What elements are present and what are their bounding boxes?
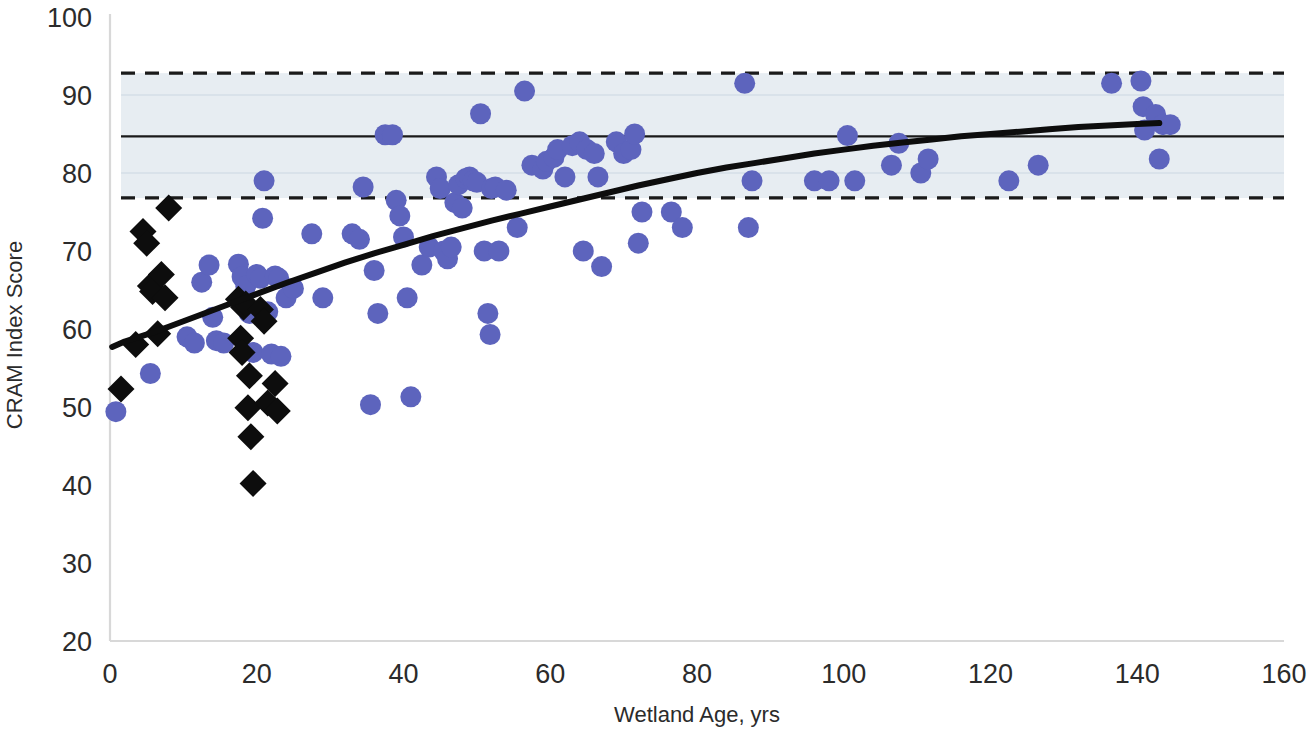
y-tick-label-80: 80 xyxy=(62,159,92,189)
data-point-circle xyxy=(301,223,322,244)
data-point-circle xyxy=(199,255,220,276)
data-point-diamond xyxy=(236,362,263,389)
y-tick-label-70: 70 xyxy=(62,237,92,267)
data-point-circle xyxy=(631,202,652,223)
data-point-circle xyxy=(628,233,649,254)
data-point-circle xyxy=(480,324,501,345)
data-point-circle xyxy=(140,363,161,384)
y-tick-label-90: 90 xyxy=(62,81,92,111)
data-point-circle xyxy=(105,401,126,422)
y-tick-label-100: 100 xyxy=(47,3,92,33)
data-point-circle xyxy=(742,170,763,191)
data-point-circle xyxy=(734,73,755,94)
data-point-circle xyxy=(184,333,205,354)
x-tick-label-60: 60 xyxy=(535,659,565,689)
data-point-diamond xyxy=(234,394,261,421)
data-point-circle xyxy=(998,170,1019,191)
y-tick-label-50: 50 xyxy=(62,393,92,423)
x-tick-label-0: 0 xyxy=(102,659,117,689)
x-tick-label-20: 20 xyxy=(242,659,272,689)
y-tick-label-30: 30 xyxy=(62,549,92,579)
data-point-circle xyxy=(496,180,517,201)
data-point-circle xyxy=(1130,70,1151,91)
data-point-circle xyxy=(364,260,385,281)
data-point-circle xyxy=(584,143,605,164)
data-point-circle xyxy=(591,256,612,277)
data-point-circle xyxy=(367,303,388,324)
data-point-diamond xyxy=(240,470,267,497)
y-tick-label-40: 40 xyxy=(62,471,92,501)
data-point-circle xyxy=(507,217,528,238)
data-point-circle xyxy=(349,229,370,250)
data-point-circle xyxy=(411,255,432,276)
data-point-circle xyxy=(353,177,374,198)
data-point-circle xyxy=(382,124,403,145)
data-point-circle xyxy=(360,394,381,415)
x-tick-label-100: 100 xyxy=(821,659,866,689)
data-point-circle xyxy=(254,170,275,191)
data-point-circle xyxy=(738,217,759,238)
data-point-circle xyxy=(452,198,473,219)
data-point-circle xyxy=(573,241,594,262)
x-tick-label-160: 160 xyxy=(1261,659,1306,689)
data-point-circle xyxy=(488,241,509,262)
data-point-circle xyxy=(918,148,939,169)
x-tick-label-140: 140 xyxy=(1115,659,1160,689)
y-tick-label-60: 60 xyxy=(62,315,92,345)
data-point-circle xyxy=(837,125,858,146)
x-tick-label-120: 120 xyxy=(968,659,1013,689)
data-point-diamond xyxy=(108,376,135,403)
data-point-circle xyxy=(1101,73,1122,94)
scatter-plot: 0204060801001201401602030405060708090100… xyxy=(0,0,1312,734)
data-point-circle xyxy=(400,386,421,407)
data-point-circle xyxy=(397,287,418,308)
data-point-circle xyxy=(477,303,498,324)
data-point-circle xyxy=(1160,114,1181,135)
y-tick-label-20: 20 xyxy=(62,627,92,657)
x-tick-label-40: 40 xyxy=(388,659,418,689)
data-point-circle xyxy=(819,170,840,191)
data-point-circle xyxy=(470,103,491,124)
data-point-circle xyxy=(1028,155,1049,176)
x-tick-label-80: 80 xyxy=(682,659,712,689)
data-point-circle xyxy=(844,170,865,191)
data-point-circle xyxy=(624,124,645,145)
data-point-circle xyxy=(252,208,273,229)
data-point-circle xyxy=(1149,148,1170,169)
data-point-circle xyxy=(587,166,608,187)
y-axis-title: CRAM Index Score xyxy=(2,241,27,429)
data-point-circle xyxy=(270,346,291,367)
x-axis-title: Wetland Age, yrs xyxy=(614,702,780,727)
data-point-circle xyxy=(312,287,333,308)
data-point-circle xyxy=(514,81,535,102)
data-point-circle xyxy=(881,155,902,176)
data-point-circle xyxy=(441,237,462,258)
chart-container: 0204060801001201401602030405060708090100… xyxy=(0,0,1312,734)
axis-titles-layer: Wetland Age, yrs CRAM Index Score xyxy=(2,241,780,727)
data-point-circle xyxy=(389,205,410,226)
data-point-diamond xyxy=(237,423,264,450)
data-point-circle xyxy=(672,217,693,238)
data-point-circle xyxy=(554,166,575,187)
